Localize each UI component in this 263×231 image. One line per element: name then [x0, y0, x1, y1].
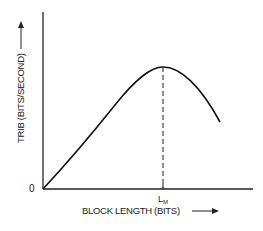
y-axis-label: TRIB (BITS/SECOND): [15, 53, 26, 143]
y-arrow-icon: [18, 21, 24, 28]
lm-label: LM: [158, 194, 168, 205]
x-arrow-icon: [212, 208, 219, 214]
trib-curve: [43, 67, 220, 189]
trib-chart: 0 LM BLOCK LENGTH (BITS) TRIB (BITS/SECO…: [0, 0, 263, 231]
x-axis-label: BLOCK LENGTH (BITS): [82, 205, 180, 216]
origin-label: 0: [29, 183, 35, 194]
